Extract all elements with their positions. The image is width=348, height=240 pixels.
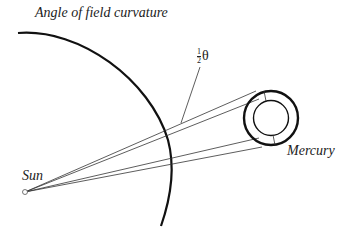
diagram-canvas: Angle of field curvature Sun Mercury 12θ — [0, 0, 348, 240]
sight-line-2 — [25, 99, 259, 192]
sight-line-1 — [25, 91, 256, 192]
theta-symbol: θ — [202, 48, 209, 63]
mercury-outer-circle — [244, 91, 298, 145]
sight-line-3 — [25, 138, 259, 192]
sun-marker — [23, 190, 28, 195]
diagram-drawing — [0, 0, 348, 240]
field-curvature-arc — [18, 33, 172, 226]
half-theta-label: 12θ — [197, 48, 209, 65]
mercury-label: Mercury — [287, 143, 335, 159]
sight-line-4 — [25, 147, 262, 192]
mercury-tick-bottom — [273, 135, 275, 145]
sun-label: Sun — [22, 168, 43, 184]
mercury-inner-circle — [254, 101, 289, 136]
half-fraction: 12 — [197, 48, 201, 65]
diagram-title: Angle of field curvature — [35, 5, 168, 21]
angle-leader-line — [181, 67, 200, 123]
